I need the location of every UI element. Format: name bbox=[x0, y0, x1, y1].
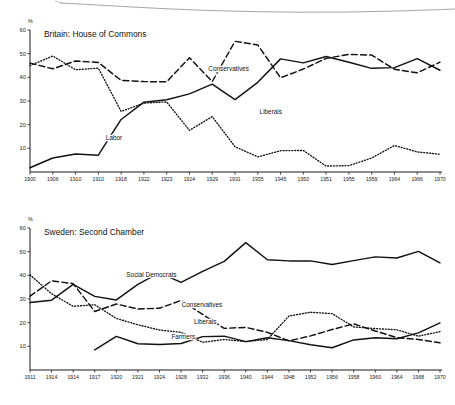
x-axis-tick-label: 1924 bbox=[154, 374, 166, 380]
y-axis-unit-label: % bbox=[28, 216, 33, 222]
chart-page: %102030405060190019061910191019181922192… bbox=[0, 0, 455, 405]
series-line-labor bbox=[30, 57, 440, 168]
x-axis-tick-label: 1911 bbox=[24, 374, 35, 380]
x-axis-tick-label: 1940 bbox=[240, 374, 252, 380]
y-axis-tick-label: 10 bbox=[20, 145, 26, 151]
x-axis-tick-label: 1922 bbox=[138, 176, 150, 182]
x-axis-tick-label: 1964 bbox=[389, 176, 401, 182]
x-axis-tick-label: 1910 bbox=[93, 176, 105, 182]
x-axis-tick-label: 1951 bbox=[320, 176, 332, 182]
chart-title: Sweden: Second Chamber bbox=[44, 227, 144, 237]
series-line-liberals bbox=[30, 56, 440, 166]
x-axis-tick-label: 1928 bbox=[175, 374, 187, 380]
x-axis-tick-label: 1914 bbox=[46, 374, 58, 380]
x-axis-tick-label: 1958 bbox=[348, 374, 360, 380]
y-axis-tick-label: 40 bbox=[20, 272, 26, 278]
y-axis-tick-label: 40 bbox=[20, 74, 26, 80]
x-axis-tick-label: 1955 bbox=[343, 176, 355, 182]
x-axis-tick-label: 1959 bbox=[366, 176, 378, 182]
chart-britain-svg: %102030405060190019061910191019181922192… bbox=[0, 18, 455, 198]
series-line-conservatives bbox=[30, 281, 440, 343]
series-label-farmers: Farmers bbox=[171, 333, 195, 340]
chart-britain-house-of-commons: %102030405060190019061910191019181922192… bbox=[0, 18, 455, 198]
series-line-social-democrats bbox=[30, 243, 440, 303]
x-axis-tick-label: 1944 bbox=[262, 374, 274, 380]
x-axis-tick-label: 1956 bbox=[326, 374, 338, 380]
series-label-conservatives: Conservatives bbox=[208, 65, 249, 72]
series-label-liberals: Liberals bbox=[194, 318, 216, 325]
y-axis-tick-label: 10 bbox=[20, 343, 26, 349]
x-axis-tick-label: 1948 bbox=[283, 374, 295, 380]
y-axis-tick-label: 30 bbox=[20, 98, 26, 104]
y-axis-tick-label: 60 bbox=[20, 225, 26, 231]
x-axis-tick-label: 1929 bbox=[206, 176, 218, 182]
y-axis-tick-label: 30 bbox=[20, 296, 26, 302]
x-axis-tick-label: 1917 bbox=[89, 374, 101, 380]
x-axis-tick-label: 1932 bbox=[197, 374, 209, 380]
x-axis-tick-label: 1968 bbox=[413, 374, 425, 380]
x-axis-tick-label: 1950 bbox=[298, 176, 310, 182]
x-axis-tick-label: 1921 bbox=[132, 374, 144, 380]
y-axis-tick-label: 60 bbox=[20, 27, 26, 33]
y-axis-tick-label: 50 bbox=[20, 249, 26, 255]
series-label-conservatives: Conservatives bbox=[182, 301, 223, 308]
x-axis-tick-label: 1923 bbox=[161, 176, 173, 182]
chart-title: Britain: House of Commons bbox=[44, 29, 146, 39]
x-axis-tick-label: 1970 bbox=[434, 176, 446, 182]
y-axis-tick-label: 20 bbox=[20, 122, 26, 128]
x-axis-tick-label: 1931 bbox=[229, 176, 241, 182]
series-label-labor: Labor bbox=[106, 134, 123, 141]
y-axis-unit-label: % bbox=[28, 18, 33, 24]
x-axis-tick-label: 1900 bbox=[24, 176, 36, 182]
x-axis-tick-label: 1914 bbox=[67, 374, 79, 380]
x-axis-tick-label: 1960 bbox=[369, 374, 381, 380]
x-axis-tick-label: 1935 bbox=[252, 176, 264, 182]
chart-sweden-svg: %102030405060191119141914191719201921192… bbox=[0, 212, 455, 405]
y-axis-tick-label: 50 bbox=[20, 51, 26, 57]
x-axis-tick-label: 1966 bbox=[411, 176, 423, 182]
x-axis-tick-label: 1970 bbox=[434, 374, 446, 380]
x-axis-tick-label: 1906 bbox=[47, 176, 59, 182]
x-axis-tick-label: 1952 bbox=[305, 374, 317, 380]
y-axis-tick-label: 20 bbox=[20, 320, 26, 326]
x-axis-tick-label: 1920 bbox=[111, 374, 123, 380]
series-line-liberals bbox=[30, 275, 440, 342]
x-axis-tick-label: 1964 bbox=[391, 374, 403, 380]
series-label-social-democrats: Social Democrats bbox=[126, 271, 176, 278]
x-axis-tick-label: 1910 bbox=[70, 176, 82, 182]
x-axis-tick-label: 1945 bbox=[275, 176, 287, 182]
series-label-liberals: Liberals bbox=[260, 108, 282, 115]
series-line-conservatives bbox=[30, 41, 440, 81]
x-axis-tick-label: 1924 bbox=[184, 176, 196, 182]
x-axis-tick-label: 1918 bbox=[115, 176, 127, 182]
chart-sweden-second-chamber: %102030405060191119141914191719201921192… bbox=[0, 212, 455, 405]
x-axis-tick-label: 1936 bbox=[218, 374, 230, 380]
series-line-farmers bbox=[95, 323, 440, 350]
